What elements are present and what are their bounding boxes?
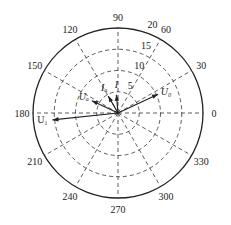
- angle-label-150: 150: [27, 60, 42, 71]
- arrowhead-icon: [108, 96, 113, 102]
- angle-label-60: 60: [161, 24, 171, 35]
- arrowhead-icon: [152, 94, 158, 99]
- angle-label-120: 120: [63, 24, 78, 35]
- angle-label-30: 30: [196, 60, 206, 71]
- arrowhead-icon: [92, 101, 98, 106]
- grid-spoke-300: [118, 113, 161, 187]
- radial-tick-labels: 5101520: [128, 19, 158, 91]
- grid-spoke-240: [76, 113, 119, 187]
- grid-spoke-60: [118, 39, 161, 113]
- grid-spoke-330: [118, 113, 192, 156]
- radial-label-20: 20: [148, 19, 158, 30]
- angle-label-210: 210: [27, 156, 42, 167]
- angle-label-300: 300: [159, 191, 174, 202]
- vector-label-U1: U₁: [37, 114, 48, 125]
- angle-label-0: 0: [212, 108, 217, 119]
- angle-label-90: 90: [113, 12, 123, 23]
- angle-label-330: 330: [194, 156, 209, 167]
- angle-label-180: 180: [15, 108, 30, 119]
- vector-label-U0: U₀: [161, 86, 172, 97]
- grid-spoke-30: [118, 71, 192, 114]
- radial-label-10: 10: [134, 60, 144, 71]
- vector-label-Ia: Iₐ: [100, 82, 107, 93]
- radial-label-5: 5: [128, 80, 133, 91]
- polar-phasor-chart: 0306090120150180210240270300330 5101520 …: [0, 0, 231, 225]
- angle-label-240: 240: [63, 191, 78, 202]
- vector-label-I: I: [114, 79, 119, 90]
- vector-label-Ua: Uₐ: [79, 91, 89, 102]
- radial-label-15: 15: [141, 40, 151, 51]
- vector-U1: U₁: [37, 113, 118, 125]
- angle-label-270: 270: [111, 204, 126, 215]
- phasor-vectors: U₁U₀UₐIₐI: [37, 79, 172, 125]
